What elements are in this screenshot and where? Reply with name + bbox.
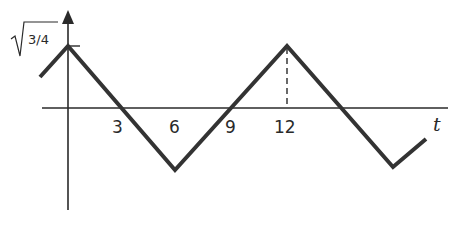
y-value-label: 3/4 [11,22,58,56]
x-tick-6: 6 [169,117,180,137]
svg-text:3/4: 3/4 [28,32,49,47]
x-axis-label: t [433,113,441,135]
x-tick-3: 3 [112,117,123,137]
x-tick-9: 9 [225,117,236,137]
y-axis-arrow-icon [62,10,74,24]
x-tick-12: 12 [274,117,296,137]
triangle-wave-diagram: 3/4 3 6 9 12 t [0,0,460,232]
